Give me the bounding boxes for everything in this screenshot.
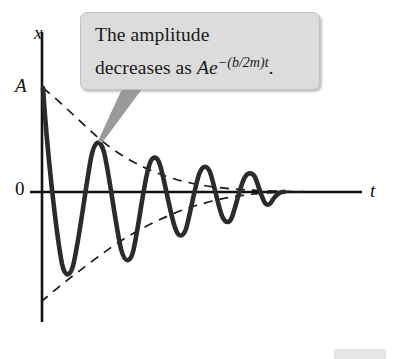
formula-exponent-body: (b/2m)t bbox=[227, 53, 268, 69]
formula-period: . bbox=[269, 57, 274, 78]
axis-label-origin: 0 bbox=[15, 178, 25, 200]
axis-label-t: t bbox=[370, 180, 375, 202]
upper-envelope-curve bbox=[43, 88, 306, 192]
damped-sine-curve bbox=[43, 88, 284, 274]
callout-line-1: The amplitude bbox=[95, 24, 209, 45]
amplitude-formula: Ae−(b/2m)t bbox=[197, 57, 269, 78]
axis-label-amplitude: A bbox=[15, 75, 27, 97]
formula-exponent-minus: − bbox=[218, 53, 227, 69]
formula-base: Ae bbox=[197, 57, 218, 78]
amplitude-callout-text: The amplitude decreases as Ae−(b/2m)t. bbox=[95, 22, 309, 81]
formula-exponent: −(b/2m)t bbox=[218, 53, 269, 69]
damped-oscillation-figure: The amplitude decreases as Ae−(b/2m)t. x… bbox=[0, 0, 400, 359]
corner-swatch bbox=[334, 349, 386, 359]
axis-label-x: x bbox=[34, 22, 42, 44]
amplitude-callout-box: The amplitude decreases as Ae−(b/2m)t. bbox=[80, 12, 320, 90]
callout-pointer bbox=[98, 89, 142, 143]
callout-line-2-prefix: decreases as bbox=[95, 57, 197, 78]
